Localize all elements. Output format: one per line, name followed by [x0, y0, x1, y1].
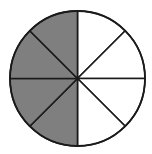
- fraction-circle: [0, 0, 152, 154]
- fraction-circle-figure: [0, 0, 152, 154]
